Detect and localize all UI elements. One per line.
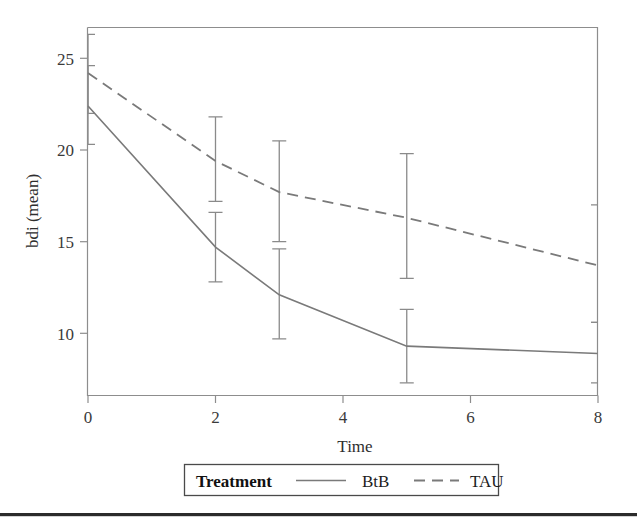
- series-line-btb: [88, 106, 598, 354]
- bdi-over-time-line-chart: 25 20 15 10 bdi (mean) 0 2 4 6 8 Time: [0, 0, 637, 525]
- plot-content: [81, 34, 605, 382]
- figure-container: 25 20 15 10 bdi (mean) 0 2 4 6 8 Time: [0, 0, 637, 525]
- legend-label-btb: BtB: [362, 472, 389, 491]
- y-tick-label-25: 25: [57, 50, 74, 69]
- page-bottom-rule: [0, 513, 637, 516]
- y-axis-title-group: bdi (mean): [23, 174, 42, 248]
- y-axis-title: bdi (mean): [23, 174, 42, 248]
- series-line-tau: [88, 73, 598, 266]
- x-tick-label-8: 8: [594, 408, 603, 427]
- plot-frame: [88, 28, 598, 396]
- y-tick-label-20: 20: [57, 141, 74, 160]
- y-tick-label-10: 10: [57, 325, 74, 344]
- y-tick-label-15: 15: [57, 233, 74, 252]
- y-axis-tick-labels: 25 20 15 10: [57, 50, 74, 344]
- x-axis-ticks: [88, 396, 598, 404]
- legend-label-tau: TAU: [470, 472, 504, 491]
- y-axis-ticks: [80, 58, 88, 333]
- x-tick-label-0: 0: [84, 408, 93, 427]
- x-axis-tick-labels: 0 2 4 6 8: [84, 408, 603, 427]
- legend-title: Treatment: [196, 472, 272, 491]
- error-bars-tau: [81, 34, 605, 322]
- legend: Treatment BtB TAU: [185, 465, 504, 496]
- x-axis-title: Time: [337, 437, 372, 456]
- x-tick-label-4: 4: [339, 408, 348, 427]
- error-bars-btb: [81, 66, 605, 383]
- x-tick-label-2: 2: [211, 408, 220, 427]
- x-tick-label-6: 6: [466, 408, 475, 427]
